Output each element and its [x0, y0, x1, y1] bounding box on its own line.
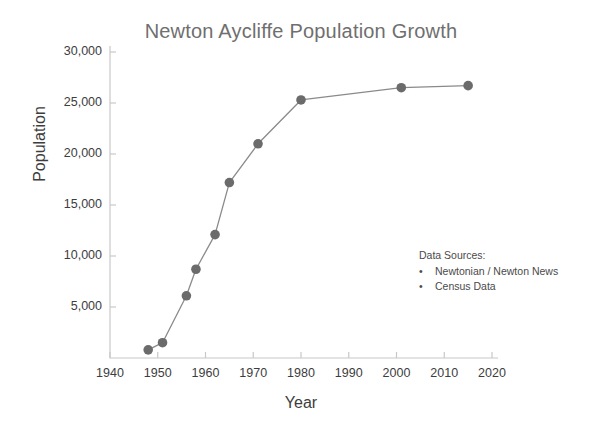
- data-point: [191, 264, 201, 274]
- axis-lines: [110, 46, 498, 358]
- data-point: [253, 139, 263, 149]
- data-source-item: • Newtonian / Newton News: [419, 264, 558, 279]
- data-source-label: Census Data: [435, 279, 496, 294]
- bullet-icon: •: [419, 279, 435, 294]
- data-source-item: • Census Data: [419, 279, 558, 294]
- data-sources-heading: Data Sources:: [419, 248, 558, 263]
- data-point: [463, 81, 473, 91]
- data-source-label: Newtonian / Newton News: [435, 264, 558, 279]
- data-point: [225, 178, 235, 188]
- data-point: [210, 230, 220, 240]
- data-point: [143, 345, 153, 355]
- data-point: [296, 95, 306, 105]
- data-point: [158, 338, 168, 348]
- chart-container: Newton Aycliffe Population Growth Popula…: [0, 0, 602, 427]
- series-line-population: [148, 86, 468, 350]
- series-markers-population: [143, 81, 473, 355]
- data-sources-annotation: Data Sources: • Newtonian / Newton News …: [419, 248, 558, 294]
- data-point: [182, 291, 192, 301]
- data-point: [396, 83, 406, 93]
- plot-area: [0, 0, 602, 427]
- bullet-icon: •: [419, 264, 435, 279]
